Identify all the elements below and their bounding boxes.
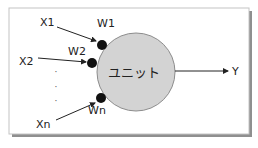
input-label-xn: Xn <box>36 118 51 131</box>
ellipsis-dot-3: · <box>55 96 58 106</box>
weight-dot-w1 <box>97 40 107 50</box>
neuron-diagram: ユニット · · · X1 X2 Xn W1 W2 Wn Y <box>0 0 258 148</box>
weight-label-w2: W2 <box>68 45 86 58</box>
ellipsis-dot-2: · <box>55 82 58 92</box>
input-label-x2: X2 <box>19 55 34 68</box>
ellipsis-dot-1: · <box>55 67 58 77</box>
weight-dot-wn <box>96 93 106 103</box>
weight-dot-w2 <box>87 58 97 68</box>
input-label-x1: X1 <box>40 16 55 29</box>
weight-label-w1: W1 <box>97 17 115 30</box>
weight-label-wn: Wn <box>88 104 106 117</box>
unit-label: ユニット <box>108 65 160 80</box>
output-label-y: Y <box>231 65 239 78</box>
